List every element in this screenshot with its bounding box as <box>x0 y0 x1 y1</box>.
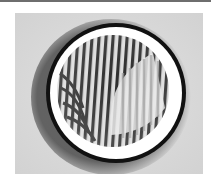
micrograph-panel <box>15 13 203 174</box>
circular-domain-image <box>15 13 203 174</box>
top-border <box>0 0 211 2</box>
